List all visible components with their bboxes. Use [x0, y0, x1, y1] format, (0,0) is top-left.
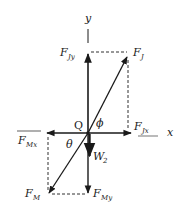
svg-text:F: F [133, 120, 142, 133]
svg-text:F: F [92, 187, 101, 200]
force-diagram: y Q ϕ θ F Jy F J F Jx x F [0, 0, 185, 212]
svg-text:Jy: Jy [66, 53, 76, 61]
fmy-label: F My [92, 187, 113, 202]
fj-label: F J [132, 46, 145, 61]
fjy-label: F Jy [59, 46, 76, 61]
svg-text:F: F [17, 134, 26, 147]
svg-text:F: F [132, 46, 141, 59]
fmx-label: F Mx [17, 131, 41, 149]
svg-text:My: My [100, 194, 113, 202]
y-axis-label: y [84, 12, 92, 25]
fjx-label: F Jx [133, 120, 158, 136]
origin-label: Q [74, 119, 83, 132]
fj-arrow [88, 57, 127, 133]
fm-label: F M [24, 187, 41, 202]
svg-text:2: 2 [102, 157, 108, 165]
phi-label: ϕ [96, 117, 104, 130]
theta-label: θ [66, 138, 73, 151]
svg-text:Mx: Mx [25, 141, 37, 149]
svg-text:Jx: Jx [140, 127, 149, 135]
svg-text:F: F [24, 187, 33, 200]
origin-point [86, 131, 90, 135]
svg-text:M: M [32, 194, 41, 202]
x-axis-label: x [167, 126, 174, 139]
svg-text:F: F [59, 46, 68, 59]
w2-label: W 2 [93, 150, 108, 165]
